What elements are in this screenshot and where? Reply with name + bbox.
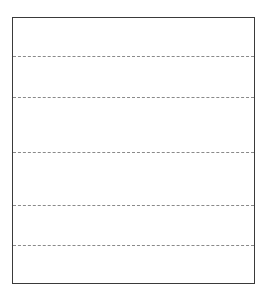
dashed-rule-line bbox=[13, 56, 254, 57]
dashed-rule-line bbox=[13, 205, 254, 206]
writing-box bbox=[12, 17, 255, 284]
dashed-rule-line bbox=[13, 97, 254, 98]
dashed-rule-line bbox=[13, 152, 254, 153]
dashed-rule-line bbox=[13, 245, 254, 246]
